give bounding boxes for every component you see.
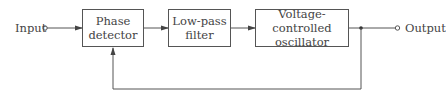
output-terminal-icon: [395, 26, 399, 30]
phase-detector-block: Phase detector: [82, 9, 144, 47]
vco-block: Voltage-controlled oscillator: [255, 9, 349, 47]
output-label: Output: [405, 21, 446, 35]
block-label-line2: oscillator: [275, 35, 329, 49]
block-label-line2: detector: [88, 28, 137, 42]
low-pass-filter-block: Low-pass filter: [168, 9, 231, 47]
input-label: Input: [15, 21, 46, 35]
block-label-line1: Phase: [96, 14, 131, 28]
block-label-line1: Voltage-controlled: [256, 7, 348, 35]
block-label-line2: filter: [185, 28, 213, 42]
block-label-line1: Low-pass: [172, 14, 226, 28]
